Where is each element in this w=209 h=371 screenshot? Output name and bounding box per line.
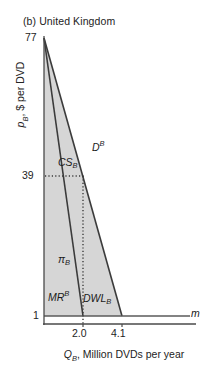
deadweight-loss-label: DWLB (83, 292, 111, 304)
x-tick-label-2-0: 2.0 (72, 327, 87, 339)
consumer-surplus-label: CSB (58, 156, 78, 168)
marginal-revenue-label: MRB (48, 291, 69, 303)
y-tick-label-39: 39 (22, 169, 34, 181)
x-tick-label-4-1: 4.1 (111, 327, 126, 339)
y-tick-label-77: 77 (25, 31, 37, 43)
figure-panel-uk: (b) United Kingdom pB, $ per DVD QB, Mil… (0, 0, 209, 371)
profit-label: πB (58, 253, 70, 265)
marginal-cost-label: m (191, 307, 200, 319)
plot-area (0, 0, 209, 371)
y-tick-label-1: 1 (33, 309, 39, 321)
demand-curve-label: DB (92, 141, 105, 153)
